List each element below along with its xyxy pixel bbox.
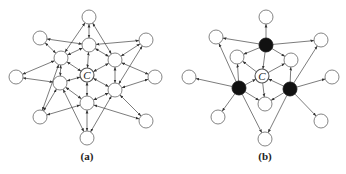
graph-node (209, 30, 223, 44)
graph-edge (222, 94, 235, 112)
graph-node (314, 114, 328, 128)
graph-edge (66, 87, 82, 99)
panel-a-graph: C (a) (9, 10, 162, 163)
panel-b-caption: (b) (258, 150, 272, 163)
graph-edge (245, 92, 259, 101)
graph-edge (95, 49, 109, 57)
graph-node (80, 96, 94, 110)
panel-a-nodes: C (9, 10, 162, 145)
graph-edge (67, 48, 82, 55)
graph-edge (44, 89, 57, 111)
graph-node (80, 131, 94, 145)
filled-node (232, 81, 246, 95)
panel-a-caption: (a) (81, 150, 94, 163)
graph-node (9, 70, 23, 84)
graph-edge (47, 39, 82, 44)
graph-node (211, 110, 225, 124)
filled-node (283, 82, 297, 96)
graph-node (230, 50, 244, 64)
center-node-label: C (258, 70, 266, 82)
graph-edge (88, 52, 89, 68)
graph-edge (93, 23, 112, 54)
graph-edge (120, 95, 141, 116)
graph-edge (268, 79, 283, 86)
graph-node (108, 83, 122, 97)
graph-edge (295, 94, 316, 116)
panel-b-graph: C (b) (182, 10, 339, 163)
graph-edge (63, 89, 84, 131)
graph-edge (67, 77, 81, 81)
graph-edge (272, 49, 285, 57)
graph-node (258, 97, 272, 111)
graph-edge (196, 79, 232, 87)
graph-edge (93, 78, 109, 86)
graph-edge (93, 93, 108, 100)
graph-edge (238, 64, 239, 81)
graph-edge (268, 63, 285, 72)
graph-edge (263, 83, 265, 97)
graph-edge (244, 48, 260, 55)
graph-edge (297, 79, 326, 87)
graph-edge (263, 52, 265, 69)
graph-edge (23, 78, 53, 82)
graph-edge (245, 79, 256, 85)
graph-edge (243, 61, 257, 72)
graph-node (325, 70, 339, 84)
graph-node (53, 76, 67, 90)
graph-node (82, 38, 96, 52)
graph-edge (96, 41, 139, 45)
graph-edge (93, 63, 109, 71)
graph-node (82, 10, 96, 24)
filled-node (259, 38, 273, 52)
graph-node (148, 70, 162, 84)
graph-node (182, 70, 196, 84)
graph-node (33, 31, 47, 45)
graph-node (258, 132, 272, 146)
figure-canvas: C (a) C (b) (0, 0, 346, 174)
graph-edge (271, 93, 284, 101)
graph-edge (294, 46, 318, 83)
center-node-label: C (83, 69, 91, 81)
graph-node (139, 114, 153, 128)
graph-edge (67, 62, 81, 71)
graph-node (108, 53, 122, 67)
graph-node (314, 33, 328, 47)
graph-edge (223, 38, 259, 44)
graph-edge (45, 43, 56, 53)
panel-b-nodes: C (182, 10, 339, 146)
graph-edge (22, 61, 54, 75)
graph-node (284, 53, 298, 67)
graph-node (139, 33, 153, 47)
graph-edge (65, 23, 85, 52)
graph-node (33, 110, 47, 124)
graph-edge (122, 79, 149, 88)
graph-edge (119, 46, 143, 84)
graph-node (54, 51, 68, 65)
graph-edge (290, 67, 291, 82)
graph-node (259, 10, 273, 24)
graph-edge (273, 41, 314, 45)
